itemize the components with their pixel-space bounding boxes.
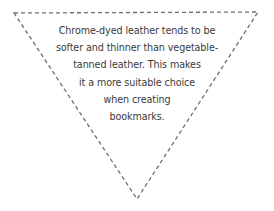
text-line: it a more suitable choice — [37, 74, 237, 91]
triangle-text: Chrome-dyed leather tends to be softer a… — [37, 22, 237, 125]
text-line: softer and thinner than vegetable- — [37, 39, 237, 56]
text-line: Chrome-dyed leather tends to be — [37, 22, 237, 39]
text-line: bookmarks. — [37, 108, 237, 125]
text-line: tanned leather. This makes — [37, 56, 237, 73]
text-line: when creating — [37, 91, 237, 108]
